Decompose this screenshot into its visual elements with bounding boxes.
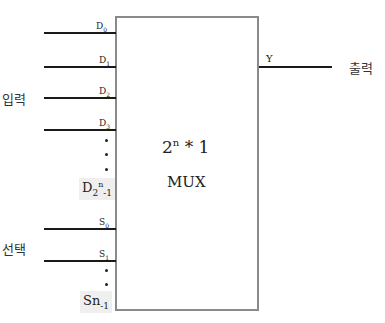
pin-label-d2: D2	[99, 86, 110, 100]
pin-label-s0: S0	[99, 217, 109, 231]
mux-subtitle: MUX	[167, 173, 206, 191]
pin-label-s1: S1	[99, 249, 109, 263]
mux-title: 2n * 1	[162, 137, 209, 157]
ellipsis-dot	[105, 153, 108, 156]
ellipsis-dot	[105, 283, 108, 286]
output-label: 출력	[349, 58, 373, 77]
pin-label-d3: D3	[99, 118, 110, 132]
pin-label-d0: D0	[96, 21, 107, 35]
pin-label-last-select: Sn-1	[80, 291, 112, 313]
select-group-label: 선택	[2, 239, 26, 258]
pin-label-d1: D1	[99, 55, 110, 69]
pin-label-y: Y	[266, 54, 273, 64]
input-group-label: 입력	[2, 89, 26, 108]
ellipsis-dot	[105, 168, 108, 171]
pin-label-last-data: D2n-1	[79, 178, 115, 200]
mux-block	[115, 16, 259, 311]
ellipsis-dot	[105, 139, 108, 142]
output-line-y	[259, 66, 332, 68]
ellipsis-dot	[105, 269, 108, 272]
